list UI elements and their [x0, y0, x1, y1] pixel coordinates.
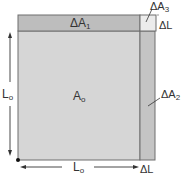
arrow-right-icon — [133, 165, 139, 169]
delta-a3-label: ΔA3 — [150, 0, 169, 16]
delta-l-bottom-label: ΔL — [140, 163, 153, 175]
l0-bottom-label: Lo — [73, 161, 84, 177]
l0-left-label: Lo — [2, 88, 13, 104]
arrow-down-icon — [8, 150, 12, 156]
delta-a2-label: ΔA2 — [161, 88, 180, 104]
area-expansion-figure — [0, 0, 182, 177]
origin-dot — [16, 158, 20, 162]
delta-a2-strip — [140, 31, 155, 160]
arrow-left-icon — [20, 165, 26, 169]
arrow-up-icon — [8, 32, 12, 38]
delta-a1-label: ΔA1 — [70, 17, 90, 33]
a0-label: Ao — [73, 90, 85, 106]
delta-l-top-label: ΔL — [159, 19, 172, 31]
